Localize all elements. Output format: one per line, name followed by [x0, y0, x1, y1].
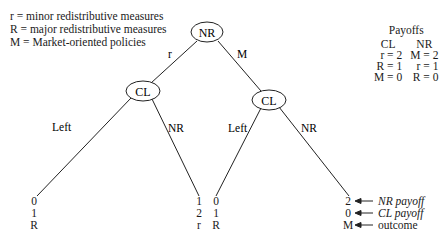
right-cl-node-label: CL: [261, 94, 276, 108]
leaf-cl-payoff: 0: [341, 207, 355, 219]
left-cl-node-label: CL: [135, 85, 150, 99]
edge-label-m: M: [237, 48, 247, 60]
leaf-cl-payoff: 1: [27, 207, 41, 219]
key-arrows: [355, 199, 373, 228]
edge-left-cl-nr: [152, 99, 199, 196]
payoffs-cell: R = 0: [406, 72, 439, 83]
edge-label-r: r: [168, 48, 172, 60]
edge-label-nr-2: NR: [301, 122, 317, 134]
leaf-outcome: R: [27, 219, 41, 231]
root-node-label: NR: [199, 26, 216, 40]
payoffs-cell: M = 0: [370, 72, 406, 83]
key-nr-payoff: NR payoff: [378, 195, 424, 207]
leaf-nr-payoff: 1: [192, 195, 206, 207]
leaf-cl-payoff: 1: [209, 207, 223, 219]
payoffs-table: CL NR r = 2 M = 2 R = 1 r = 1 M = 0 R = …: [370, 38, 439, 83]
leaf-cl-payoff: 2: [192, 207, 206, 219]
leaf-outcome: M: [341, 219, 355, 231]
edge-label-left-2: Left: [228, 122, 248, 134]
leaf-outcome: r: [192, 219, 206, 231]
leaf-1: 0 1 R: [27, 195, 41, 231]
leaf-3: 0 1 R: [209, 195, 223, 231]
key-cl-payoff: CL payoff: [378, 207, 423, 219]
payoffs-box: Payoffs CL NR r = 2 M = 2 R = 1 r = 1 M …: [370, 24, 439, 83]
edge-left-cl-left: [37, 98, 131, 196]
edge-label-nr-1: NR: [168, 122, 184, 134]
leaf-4: 2 0 M: [341, 195, 355, 231]
payoffs-title: Payoffs: [370, 24, 439, 36]
leaf-2: 1 2 r: [192, 195, 206, 231]
leaf-outcome: R: [209, 219, 223, 231]
edge-root-r: [151, 41, 197, 83]
payoff-key: NR payoff CL payoff outcome: [378, 195, 424, 231]
leaf-nr-payoff: 0: [27, 195, 41, 207]
edge-label-left-1: Left: [52, 121, 72, 133]
leaf-nr-payoff: 2: [341, 195, 355, 207]
payoffs-row: M = 0 R = 0: [370, 72, 439, 83]
key-outcome: outcome: [378, 219, 424, 231]
leaf-nr-payoff: 0: [209, 195, 223, 207]
edge-right-cl-nr: [279, 107, 349, 196]
